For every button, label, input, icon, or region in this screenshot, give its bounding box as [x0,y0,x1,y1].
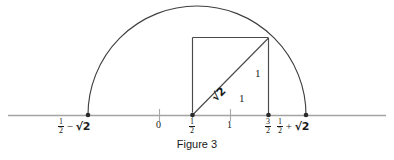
label-vertical-side-one: 1 [255,67,261,79]
figure-3-container: 1 2 − √2 0 1 2 1 3 2 1 2 + √2 √2 1 1 [0,0,394,160]
tick-label-three-halves: 3 2 [265,118,271,135]
semicircle-arc [88,6,306,115]
fraction-one-half-left: 1 2 [58,118,64,135]
radical-sqrt-two-left: √2 [76,120,91,133]
tick-label-zero: 0 [156,119,161,130]
label-horizontal-side-one: 1 [239,92,245,104]
minus-operator: − [67,120,73,132]
tick-label-one-half: 1 2 [189,118,195,135]
figure-drawing-canvas [0,0,394,160]
label-right-endpoint: 1 2 + √2 [277,118,309,135]
fraction-one-half-right: 1 2 [277,118,283,135]
plus-operator: + [286,120,292,132]
fraction-three-halves: 3 2 [265,118,271,135]
radical-sqrt-two-right: √2 [295,120,310,133]
figure-caption: Figure 3 [0,138,394,150]
fraction-one-half: 1 2 [189,118,195,135]
point-dot-right-endpoint [304,113,309,118]
label-left-endpoint: 1 2 − √2 [58,118,90,135]
tick-label-one: 1 [227,119,232,130]
point-dot-left-endpoint [86,113,91,118]
